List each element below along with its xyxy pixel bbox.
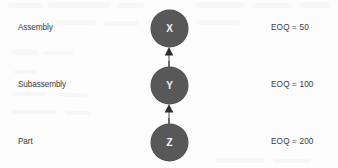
scan-artifact bbox=[66, 111, 90, 115]
node-y-label: Y bbox=[166, 81, 173, 91]
scan-artifact bbox=[104, 21, 138, 26]
eoq-label-assembly: EOQ = 50 bbox=[271, 23, 309, 32]
scan-artifact bbox=[8, 3, 42, 8]
scan-artifact bbox=[196, 20, 240, 25]
scan-artifact bbox=[300, 2, 330, 8]
scan-artifact bbox=[215, 158, 265, 163]
eoq-label-part: EOQ = 200 bbox=[271, 137, 314, 146]
scan-artifact bbox=[118, 3, 144, 8]
node-z-label: Z bbox=[166, 138, 172, 148]
bom-diagram: Assembly Subassembly Part X Y Z EOQ = 50… bbox=[0, 0, 338, 168]
level-label-part: Part bbox=[18, 137, 33, 146]
scan-artifact bbox=[44, 51, 74, 55]
scan-artifact bbox=[196, 2, 244, 8]
eoq-label-subassembly: EOQ = 100 bbox=[271, 80, 314, 89]
scan-artifact bbox=[56, 20, 96, 25]
node-z[interactable]: Z bbox=[151, 124, 188, 161]
scan-artifact bbox=[12, 92, 46, 96]
level-label-assembly: Assembly bbox=[18, 23, 53, 32]
scan-artifact bbox=[60, 93, 88, 97]
scan-artifact bbox=[14, 70, 36, 74]
node-x-label: X bbox=[166, 24, 173, 34]
scan-artifact bbox=[48, 2, 110, 8]
level-label-subassembly: Subassembly bbox=[18, 80, 66, 89]
node-x[interactable]: X bbox=[151, 10, 188, 47]
scan-artifact bbox=[12, 110, 56, 114]
node-y[interactable]: Y bbox=[151, 67, 188, 104]
scan-artifact bbox=[252, 3, 292, 8]
scan-artifact bbox=[274, 159, 310, 163]
scan-artifact bbox=[12, 50, 38, 55]
